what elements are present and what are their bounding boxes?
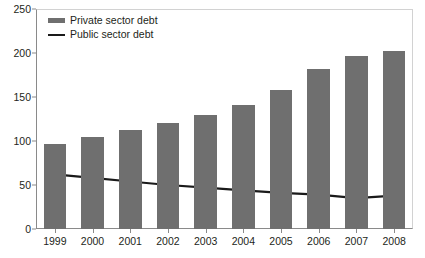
bar-group: 2003 xyxy=(187,9,225,229)
bar-swatch-icon xyxy=(48,18,65,23)
x-tick-label: 2008 xyxy=(382,236,405,247)
x-tick-mark xyxy=(206,229,207,233)
x-tick-label: 2004 xyxy=(232,236,255,247)
bar-group: 2008 xyxy=(375,9,413,229)
bar-private-sector-debt xyxy=(81,137,104,229)
bar-private-sector-debt xyxy=(232,105,255,229)
x-tick-label: 2002 xyxy=(156,236,179,247)
y-tick-label: 150 xyxy=(13,92,31,103)
x-tick-mark xyxy=(394,229,395,233)
x-tick-mark xyxy=(168,229,169,233)
x-tick-mark xyxy=(93,229,94,233)
legend-item-label: Private sector debt xyxy=(70,15,158,26)
bar-group: 2006 xyxy=(300,9,338,229)
y-tick-label: 0 xyxy=(25,224,31,235)
bar-group: 2004 xyxy=(225,9,263,229)
bar-group: 2007 xyxy=(338,9,376,229)
legend-item-private-sector-debt: Private sector debt xyxy=(48,15,158,26)
x-tick-mark xyxy=(55,229,56,233)
bar-private-sector-debt xyxy=(157,123,180,229)
y-tick-label: 200 xyxy=(13,48,31,59)
chart-container: 050100150200250 199920002001200220032004… xyxy=(0,0,425,258)
bar-private-sector-debt xyxy=(383,51,406,229)
x-tick-mark xyxy=(281,229,282,233)
x-tick-label: 2007 xyxy=(345,236,368,247)
x-tick-label: 1999 xyxy=(43,236,66,247)
y-tick-label: 50 xyxy=(19,180,31,191)
bar-group: 2005 xyxy=(262,9,300,229)
legend-item-label: Public sector debt xyxy=(70,29,153,40)
x-tick-mark xyxy=(319,229,320,233)
x-tick-mark xyxy=(356,229,357,233)
x-tick-label: 2000 xyxy=(81,236,104,247)
bar-private-sector-debt xyxy=(307,69,330,229)
bar-private-sector-debt xyxy=(270,90,293,229)
x-tick-mark xyxy=(130,229,131,233)
chart-legend: Private sector debt Public sector debt xyxy=(48,15,158,43)
x-tick-label: 2001 xyxy=(119,236,142,247)
bar-private-sector-debt xyxy=(119,130,142,229)
bar-private-sector-debt xyxy=(345,56,368,229)
y-tick-label: 100 xyxy=(13,136,31,147)
bar-private-sector-debt xyxy=(44,144,67,229)
bar-private-sector-debt xyxy=(194,115,217,229)
line-swatch-icon xyxy=(48,34,65,36)
legend-item-public-sector-debt: Public sector debt xyxy=(48,29,158,40)
x-tick-label: 2003 xyxy=(194,236,217,247)
y-tick-label: 250 xyxy=(13,4,31,15)
x-tick-label: 2005 xyxy=(269,236,292,247)
x-tick-label: 2006 xyxy=(307,236,330,247)
x-tick-mark xyxy=(243,229,244,233)
